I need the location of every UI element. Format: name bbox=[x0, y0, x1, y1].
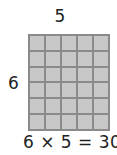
grid-cell bbox=[62, 36, 76, 50]
grid-cell bbox=[94, 99, 108, 113]
grid-cell bbox=[78, 99, 92, 113]
grid-cell bbox=[30, 115, 44, 129]
grid-cell bbox=[62, 83, 76, 97]
grid-cell bbox=[30, 52, 44, 66]
grid-cell bbox=[94, 115, 108, 129]
grid-cell bbox=[46, 68, 60, 82]
grid-cell bbox=[62, 99, 76, 113]
rows-label: 6 bbox=[8, 75, 19, 92]
columns-label: 5 bbox=[55, 8, 66, 25]
grid-cell bbox=[30, 99, 44, 113]
grid-cell bbox=[30, 83, 44, 97]
multiplication-equation: 6 × 5 = 30 bbox=[23, 134, 117, 151]
grid-cell bbox=[46, 99, 60, 113]
grid-cell bbox=[62, 52, 76, 66]
grid-cell bbox=[46, 52, 60, 66]
grid-cell bbox=[94, 36, 108, 50]
grid-cell bbox=[62, 115, 76, 129]
array-grid bbox=[28, 34, 110, 131]
grid-cell bbox=[46, 83, 60, 97]
grid-cell bbox=[46, 36, 60, 50]
grid-cell bbox=[46, 115, 60, 129]
grid-cell bbox=[94, 83, 108, 97]
grid-cell bbox=[94, 52, 108, 66]
grid-cell bbox=[30, 68, 44, 82]
grid-cell bbox=[78, 115, 92, 129]
grid-cell bbox=[62, 68, 76, 82]
grid-cell bbox=[78, 52, 92, 66]
grid-cell bbox=[78, 83, 92, 97]
grid-cell bbox=[78, 36, 92, 50]
grid-cell bbox=[94, 68, 108, 82]
grid-cell bbox=[78, 68, 92, 82]
grid-cell bbox=[30, 36, 44, 50]
